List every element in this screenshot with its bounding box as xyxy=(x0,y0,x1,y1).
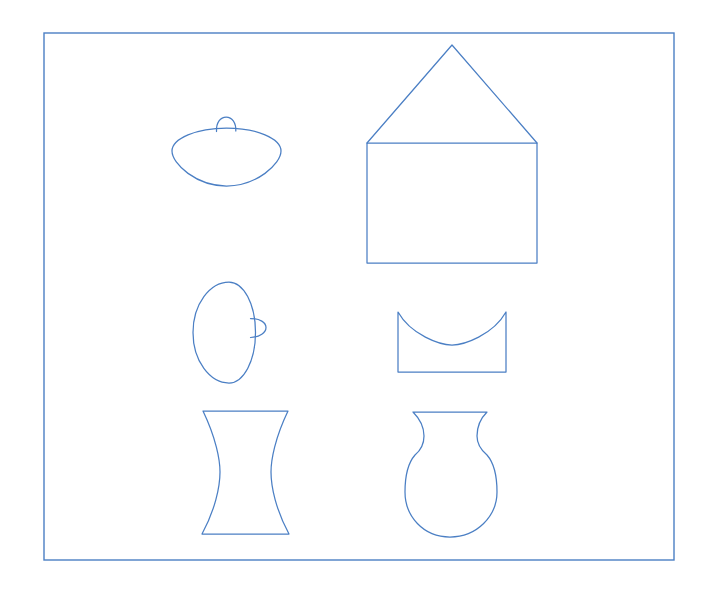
drawing-canvas: Wide ellipse lid with top knobSmall knob… xyxy=(0,0,709,589)
paper-background xyxy=(0,0,709,589)
vessel-outline-illustration: Wide ellipse lid with top knobSmall knob… xyxy=(0,0,709,589)
